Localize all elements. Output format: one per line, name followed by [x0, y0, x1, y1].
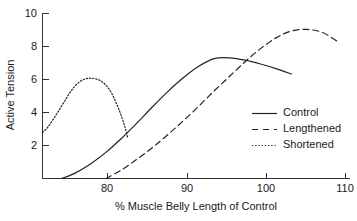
y-tick-label-8: 8: [31, 40, 37, 52]
x-tick-label-80: 80: [101, 182, 113, 194]
chart-plot-area: 10 8 6 4 2 80 90 100 110 % Muscle Belly …: [0, 0, 357, 221]
y-tick-label-10: 10: [25, 7, 37, 19]
axes-group: [43, 13, 350, 179]
series-line-control: [62, 58, 292, 179]
x-tick-label-110: 110: [336, 182, 354, 194]
y-tick-label-6: 6: [31, 73, 37, 85]
x-axis-title: % Muscle Belly Length of Control: [115, 200, 277, 212]
y-axis-title: Active Tension: [4, 60, 16, 131]
series-line-shortened: [43, 78, 128, 137]
data-series-group: [43, 29, 338, 178]
legend-label-control: Control: [283, 106, 318, 118]
x-axis-ticks: 80 90 100 110: [101, 173, 354, 195]
x-tick-label-90: 90: [181, 182, 193, 194]
legend-label-lengthened: Lengthened: [283, 122, 341, 134]
series-line-lengthened: [106, 29, 338, 178]
y-tick-label-4: 4: [31, 106, 37, 118]
chart-legend: Control Lengthened Shortened: [252, 106, 341, 150]
x-tick-label-100: 100: [257, 182, 275, 194]
legend-label-shortened: Shortened: [283, 138, 334, 150]
chart-figure: 10 8 6 4 2 80 90 100 110 % Muscle Belly …: [0, 0, 357, 221]
y-tick-label-2: 2: [31, 139, 37, 151]
